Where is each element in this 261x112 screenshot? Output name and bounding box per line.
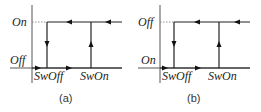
arrow-down-icon — [45, 41, 50, 47]
arrow-left-icon — [66, 20, 72, 25]
x-right-label: SwOn — [80, 69, 109, 83]
panel-b: Off On SwOff SwOn (b) — [138, 5, 250, 104]
panel-caption: (b) — [187, 92, 200, 104]
panel-caption: (a) — [59, 92, 72, 104]
arrow-up-icon — [217, 41, 222, 47]
panel-a: On Off SwOff SwOn (a) — [10, 5, 122, 104]
arrow-left-icon — [194, 20, 200, 25]
arrow-right-icon — [195, 66, 201, 71]
y-bottom-label: On — [141, 53, 156, 67]
x-left-label: SwOff — [162, 69, 193, 83]
y-top-label: On — [12, 15, 27, 29]
hysteresis-diagrams: On Off SwOff SwOn (a) Off On SwOff SwOn … — [0, 0, 261, 112]
x-right-label: SwOn — [208, 69, 237, 83]
arrow-down-icon — [172, 41, 177, 47]
y-top-label: Off — [138, 15, 155, 29]
arrow-left-icon — [105, 20, 111, 25]
arrow-right-icon — [66, 66, 72, 71]
arrow-up-icon — [89, 41, 94, 47]
arrow-left-icon — [234, 20, 240, 25]
y-bottom-label: Off — [10, 53, 27, 67]
x-left-label: SwOff — [34, 69, 65, 83]
